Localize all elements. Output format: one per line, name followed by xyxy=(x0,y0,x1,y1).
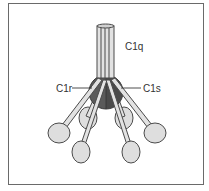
c1q-heads-front xyxy=(48,123,166,163)
label-c1r: C1r xyxy=(56,84,72,94)
label-c1s: C1s xyxy=(143,84,161,94)
head-front-left xyxy=(72,141,90,163)
c1-complex-diagram xyxy=(0,0,209,191)
head-front-right xyxy=(122,141,140,163)
head-left xyxy=(48,123,70,143)
head-right xyxy=(144,123,166,143)
c1q-stem xyxy=(97,24,114,78)
label-c1q: C1q xyxy=(125,42,143,52)
